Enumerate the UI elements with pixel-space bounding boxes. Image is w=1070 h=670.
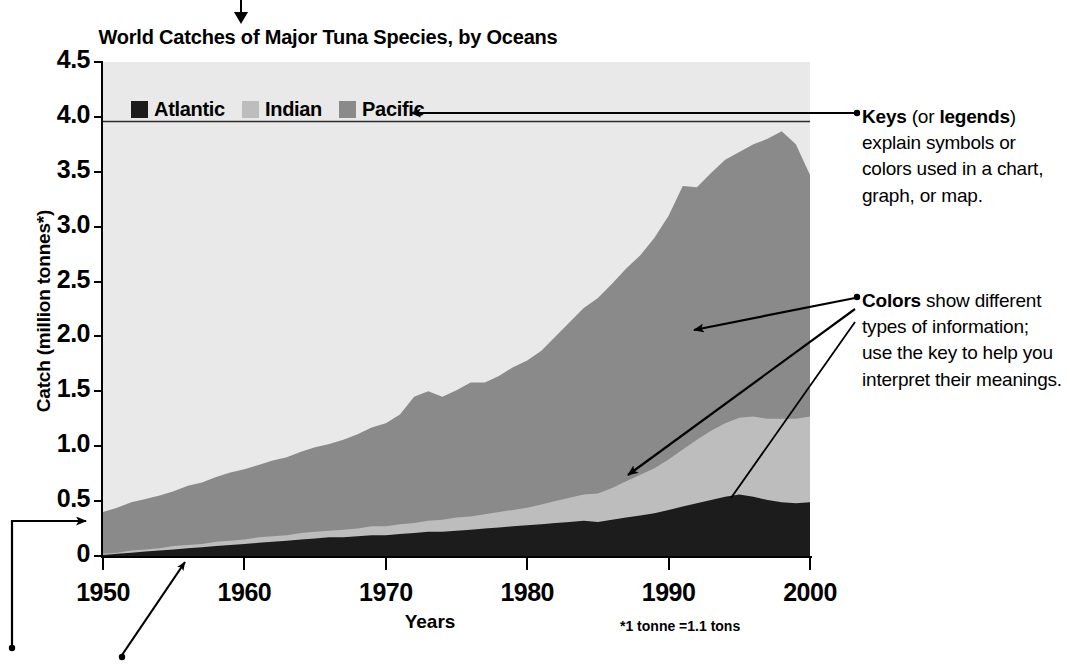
x-tick (668, 557, 670, 570)
y-tick (94, 61, 103, 63)
legend-swatch-icon (131, 101, 148, 118)
y-tick-label: 0 (28, 539, 90, 568)
y-tick (94, 445, 103, 447)
title-pointer-arrow (234, 0, 248, 24)
x-tick-label: 2000 (765, 578, 855, 607)
x-tick (385, 557, 387, 570)
x-axis-line (101, 556, 812, 558)
callout-keys: Keys (or legends) explain symbols or col… (862, 104, 1062, 209)
chart-figure: World Catches of Major Tuna Species, by … (0, 0, 1070, 670)
x-tick (526, 557, 528, 570)
legend-item-pacific[interactable]: Pacific (339, 98, 424, 121)
y-axis-title: Catch (million tonnes*) (33, 101, 55, 521)
y-tick (94, 226, 103, 228)
unit-footnote: *1 tonne =1.1 tons (620, 618, 740, 634)
x-axis-title: Years (330, 611, 530, 633)
callout-colors: Colors show different types of informati… (862, 288, 1062, 393)
legend-item-indian[interactable]: Indian (242, 98, 322, 121)
x-tick (809, 557, 811, 570)
page-title: World Catches of Major Tuna Species, by … (88, 26, 568, 49)
x-tick-label: 1990 (624, 578, 714, 607)
x-tick-label: 1960 (199, 578, 289, 607)
legend-item-atlantic[interactable]: Atlantic (131, 98, 225, 121)
y-tick (94, 500, 103, 502)
legend-label: Atlantic (154, 98, 225, 121)
y-tick (94, 171, 103, 173)
stacked-area-plot (103, 62, 810, 556)
x-tick (102, 557, 104, 570)
legend-label: Pacific (362, 98, 424, 121)
legend-swatch-icon (242, 101, 259, 118)
y-tick-label: 4.5 (28, 45, 90, 74)
x-axis-tick-labels: 195019601970198019902000 (0, 578, 1070, 618)
y-axis-line (101, 62, 103, 558)
plot-area (103, 62, 810, 556)
x-tick (243, 557, 245, 570)
y-tick (94, 281, 103, 283)
y-tick (94, 116, 103, 118)
legend-swatch-icon (339, 101, 356, 118)
chart-legend: AtlanticIndianPacific (131, 98, 424, 121)
legend-label: Indian (265, 98, 322, 121)
x-tick-label: 1970 (341, 578, 431, 607)
x-tick-label: 1950 (58, 578, 148, 607)
x-tick-label: 1980 (482, 578, 572, 607)
y-tick (94, 335, 103, 337)
y-tick (94, 390, 103, 392)
